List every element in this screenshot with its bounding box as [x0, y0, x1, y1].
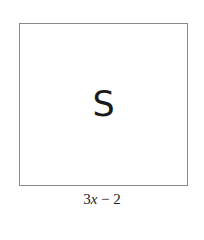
side-coefficient: 3	[83, 191, 91, 207]
square-shape: S	[19, 23, 188, 186]
side-length-label: 3x − 2	[0, 191, 204, 208]
area-label: S	[20, 24, 187, 185]
side-operator: −	[97, 191, 113, 207]
side-constant: 2	[113, 191, 121, 207]
